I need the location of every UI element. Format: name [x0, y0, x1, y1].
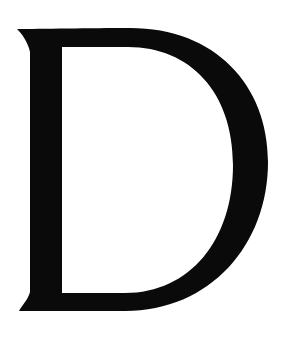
letter-d-glyph [0, 0, 290, 351]
letter-canvas: D [0, 0, 290, 351]
letter-d-shape [17, 28, 268, 311]
